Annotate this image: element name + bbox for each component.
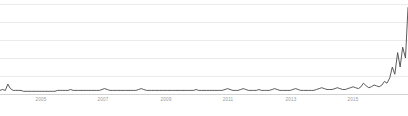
xtick-label: 2007 [98, 97, 109, 103]
trends-line-chart: 2005 2007 2009 2011 2013 2015 [0, 0, 408, 116]
plot-area [0, 0, 408, 96]
xtick-label: 2011 [223, 97, 233, 103]
data-series-line [0, 8, 408, 92]
xtick-label: 2015 [348, 97, 359, 103]
series-group [0, 0, 408, 96]
xtick-label: 2005 [36, 97, 47, 103]
x-axis-tick-labels: 2005 2007 2009 2011 2013 2015 [0, 96, 408, 116]
xtick-label: 2013 [286, 97, 297, 103]
xtick-label: 2009 [161, 97, 172, 103]
